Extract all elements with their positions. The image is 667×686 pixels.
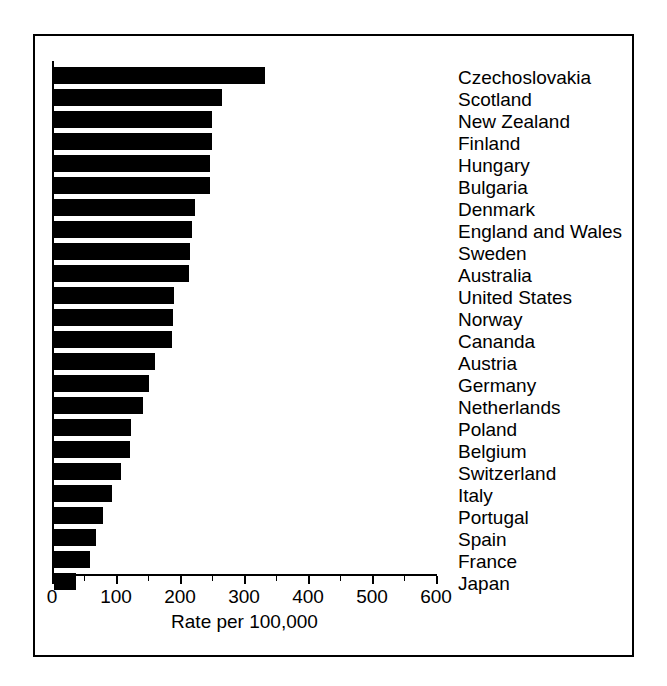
axis-tick-label: 200 [150,586,210,608]
axis-tick-label: 400 [278,586,338,608]
bar [54,89,222,106]
bar [54,287,174,304]
axis-tick-label: 100 [86,586,146,608]
bar [54,397,143,414]
bar-category-label: England and Wales [458,222,622,241]
axis-tick [148,576,149,581]
axis-tick [276,576,277,581]
axis-tick [84,576,85,581]
axis-tick [436,576,438,584]
bar-category-label: Netherlands [458,398,560,417]
bar [54,419,131,436]
figure-frame: 0100200300400500600 Rate per 100,000 Cze… [33,34,634,657]
figure: 0100200300400500600 Rate per 100,000 Cze… [0,0,667,686]
bar-chart-plot-area: 0100200300400500600 Rate per 100,000 Cze… [35,36,636,659]
axis-tick-label: 600 [406,586,466,608]
axis-tick [340,576,341,581]
bar-category-label: Germany [458,376,536,395]
bar [54,309,173,326]
bar-category-label: Italy [458,486,493,505]
bar [54,111,212,128]
bar-category-label: New Zealand [458,112,570,131]
bar [54,265,189,282]
axis-tick-label: 300 [214,586,274,608]
bar [54,441,130,458]
bar-category-label: Bulgaria [458,178,528,197]
bar-category-label: Cananda [458,332,535,351]
bar-category-label: Portugal [458,508,529,527]
axis-tick [212,576,213,581]
bar [54,331,172,348]
bar-category-label: Czechoslovakia [458,68,591,87]
bar-category-label: Belgium [458,442,527,461]
bar [54,573,76,590]
bar-category-label: Scotland [458,90,532,109]
bar [54,155,210,172]
bar-category-label: Denmark [458,200,535,219]
bar [54,485,112,502]
bar [54,551,90,568]
bar [54,529,96,546]
bar-category-label: Sweden [458,244,527,263]
axis-tick [180,576,182,584]
bar [54,199,195,216]
bar [54,67,265,84]
bar-category-label: Hungary [458,156,530,175]
bar [54,507,103,524]
axis-tick [372,576,374,584]
bar [54,133,212,150]
axis-tick [308,576,310,584]
bar-category-label: Japan [458,574,510,593]
bar-category-label: Australia [458,266,532,285]
bar [54,463,121,480]
bar-category-label: France [458,552,517,571]
axis-tick [244,576,246,584]
bar-category-label: United States [458,288,572,307]
bar [54,375,149,392]
bar [54,353,155,370]
x-axis-title: Rate per 100,000 [52,611,437,633]
axis-tick-label: 500 [342,586,402,608]
axis-tick [404,576,405,581]
bar-category-label: Poland [458,420,517,439]
bar [54,243,190,260]
bar [54,221,192,238]
bar [54,177,210,194]
bar-category-label: Austria [458,354,517,373]
bar-category-label: Spain [458,530,507,549]
axis-tick [116,576,118,584]
bar-category-label: Norway [458,310,522,329]
bar-category-label: Switzerland [458,464,556,483]
bar-category-label: Finland [458,134,520,153]
